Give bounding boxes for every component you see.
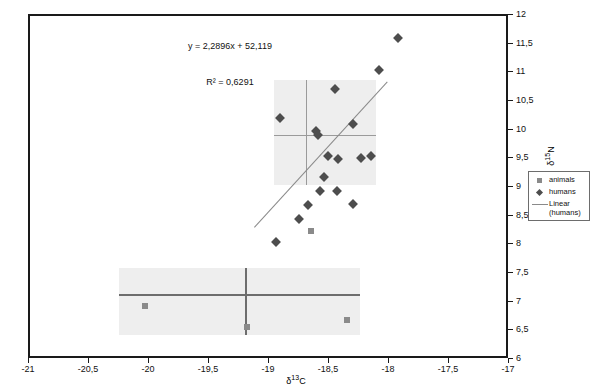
regression-equation-annotation: y = 2,2896x + 52,119 R² = 0,6291 (150, 16, 310, 112)
y-axis-tick (508, 329, 513, 330)
y-axis-tick (508, 186, 513, 187)
y-axis-tick (508, 157, 513, 158)
y-axis-tick (508, 301, 513, 302)
data-point-animals (308, 228, 314, 234)
data-point-humans (315, 186, 325, 196)
y-axis-tick-label: 11,5 (516, 38, 533, 48)
legend-item-animals: animals (531, 175, 587, 185)
y-axis-tick-label: 10 (516, 124, 526, 134)
y-axis-tick (508, 272, 513, 273)
y-axis-tick-label: 7 (516, 296, 521, 306)
x-axis-tick-label: -20 (141, 364, 154, 374)
y-axis-tick-label: 11 (516, 66, 525, 76)
legend-label-humans: humans (549, 187, 576, 196)
data-point-animals (142, 303, 148, 309)
data-point-humans (348, 199, 358, 209)
x-axis-tick-label: -21 (21, 364, 34, 374)
x-axis-tick-label: -20,5 (78, 364, 99, 374)
x-axis-tick (148, 358, 149, 363)
x-axis-tick (388, 358, 389, 363)
y-axis-tick (508, 129, 513, 130)
diamond-marker-icon (531, 187, 549, 197)
y-axis-tick (508, 243, 513, 244)
y-axis-tick-label: 7,5 (516, 267, 529, 277)
y-axis-tick (508, 71, 513, 72)
data-point-humans (393, 33, 403, 43)
y-axis-tick-label: 8,5 (516, 210, 529, 220)
lower-cluster-box-centroid-hline (119, 294, 360, 296)
line-marker-icon (531, 199, 549, 209)
x-axis-tick (448, 358, 449, 363)
y-axis-title: δ15N (544, 146, 556, 165)
upper-cluster-box-centroid-hline (274, 135, 376, 136)
regression-equation-line: y = 2,2896x + 52,119 (150, 40, 310, 52)
data-point-humans (294, 214, 304, 224)
y-axis-tick-label: 6 (516, 353, 521, 363)
x-axis-tick-label: -19 (261, 364, 274, 374)
y-axis-tick (508, 14, 513, 15)
data-point-humans (271, 238, 281, 248)
data-point-humans (303, 200, 313, 210)
legend-label-linear-humans: Linear (humans) (549, 199, 581, 217)
y-axis-tick-label: 9,5 (516, 152, 529, 162)
y-axis-tick (508, 100, 513, 101)
x-axis-tick (208, 358, 209, 363)
r-squared-line: R² = 0,6291 (150, 76, 310, 88)
x-axis-tick (268, 358, 269, 363)
x-axis-tick-label: -18,5 (318, 364, 339, 374)
legend-item-humans: humans (531, 187, 587, 197)
y-axis-tick (508, 43, 513, 44)
y-axis-tick (508, 358, 513, 359)
x-axis-tick-label: -19,5 (198, 364, 219, 374)
y-axis-tick-label: 8 (516, 238, 521, 248)
y-axis-tick-label: 9 (516, 181, 521, 191)
x-axis-title: δ13C (0, 374, 592, 386)
x-axis-tick-label: -17 (501, 364, 514, 374)
x-axis-tick-label: -17,5 (438, 364, 459, 374)
data-point-humans (374, 66, 384, 76)
data-point-humans (332, 186, 342, 196)
x-axis-tick (328, 358, 329, 363)
lower-cluster-box (119, 268, 360, 335)
y-axis-tick-label: 10,5 (516, 95, 534, 105)
square-marker-icon (531, 175, 549, 185)
x-axis-tick (28, 358, 29, 363)
legend: animals humans Linear (humans) (528, 171, 590, 221)
y-axis-tick (508, 215, 513, 216)
data-point-animals (344, 317, 350, 323)
y-axis-tick-label: 12 (516, 9, 526, 19)
scatter-plot-figure: y = 2,2896x + 52,119 R² = 0,6291 -21-20,… (0, 0, 592, 390)
y-axis-tick-label: 6,5 (516, 324, 529, 334)
legend-label-animals: animals (549, 175, 575, 184)
legend-item-linear-humans: Linear (humans) (531, 199, 587, 217)
data-point-animals (244, 324, 250, 330)
x-axis-tick (88, 358, 89, 363)
x-axis-tick-label: -18 (381, 364, 394, 374)
